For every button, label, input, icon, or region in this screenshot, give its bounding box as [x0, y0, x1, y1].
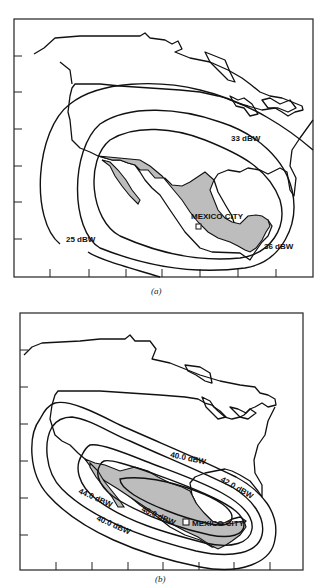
panel-a: 33 dBW 36 dBW 25 dBW MEXICO CITY (a): [0, 0, 319, 295]
map-b: 40.0 dBW 42.0 dBW 44.0 dBW 46.0 dBW 40.0…: [0, 295, 319, 585]
label-40dbw-upper: 40.0 dBW: [170, 450, 208, 466]
y-ticks-b: [20, 350, 28, 535]
city-label-a: MEXICO CITY: [191, 212, 244, 221]
city-label-b: MEXICO CITY: [192, 519, 245, 528]
caption-b: (b): [155, 574, 166, 584]
north-america-outline: [34, 33, 313, 260]
baja-california-region: [102, 160, 140, 204]
frame-a: [14, 19, 313, 277]
panel-b: 40.0 dBW 42.0 dBW 44.0 dBW 46.0 dBW 40.0…: [0, 295, 319, 585]
label-33dbw: 33 dBW: [231, 134, 261, 143]
mexico-city-marker-b: [183, 519, 189, 525]
mexico-city-marker-a: [196, 224, 201, 229]
map-a: 33 dBW 36 dBW 25 dBW MEXICO CITY: [0, 0, 319, 285]
label-25dbw: 25 dBW: [66, 235, 96, 244]
y-ticks-a: [14, 56, 22, 239]
label-36dbw: 36 dBW: [264, 242, 294, 251]
label-42dbw: 42.0 dBW: [219, 475, 255, 501]
great-lakes-outline-b: [202, 397, 256, 419]
x-ticks-a: [50, 269, 276, 277]
